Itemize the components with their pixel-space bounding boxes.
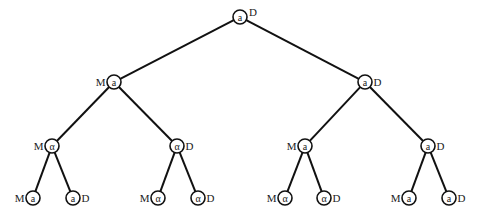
node-symbol: a: [447, 193, 452, 204]
node-symbol: a: [71, 193, 76, 204]
label-d: D: [458, 192, 466, 204]
node-symbol: a: [112, 77, 117, 88]
tree-node: aM: [96, 75, 121, 89]
tree-edge: [55, 152, 71, 191]
node-symbol: a: [407, 193, 412, 204]
tree-edge: [411, 153, 425, 192]
tree-edge: [288, 153, 303, 192]
tree-node: αD: [191, 191, 215, 205]
node-symbol: a: [303, 141, 308, 152]
label-m: M: [15, 192, 25, 204]
tree-node: aM: [287, 139, 312, 153]
tree-node: αD: [170, 139, 194, 153]
label-m: M: [391, 192, 401, 204]
tree-node: aD: [233, 6, 257, 24]
tree-edge: [180, 152, 196, 191]
tree-edge: [370, 87, 423, 141]
label-m: M: [96, 76, 106, 88]
tree-edge: [120, 20, 234, 79]
label-d: D: [333, 192, 341, 204]
label-d: D: [249, 6, 257, 18]
label-d: D: [207, 192, 215, 204]
tree-edge: [307, 153, 321, 192]
tree-node: aD: [421, 139, 445, 153]
tree-nodes: aDaMaDαMαDaMaDaMaDαMαDαMαDaMaD: [15, 6, 466, 205]
node-symbol: a: [363, 77, 368, 88]
tree-edge: [431, 152, 447, 191]
node-symbol: α: [155, 193, 161, 204]
tree-edges: [35, 20, 446, 191]
tree-node: αD: [317, 191, 341, 205]
tree-edge: [35, 153, 49, 192]
node-symbol: a: [426, 141, 431, 152]
tree-edge: [160, 153, 174, 192]
label-m: M: [34, 140, 44, 152]
tree-edge: [57, 87, 109, 141]
tree-node: aD: [358, 75, 382, 89]
tree-node: αM: [34, 139, 59, 153]
tree-node: αM: [267, 191, 292, 205]
label-d: D: [374, 76, 382, 88]
node-symbol: α: [321, 193, 327, 204]
tree-node: αM: [140, 191, 165, 205]
node-symbol: α: [195, 193, 201, 204]
tree-edge: [119, 87, 172, 141]
node-symbol: a: [238, 12, 243, 23]
node-symbol: α: [49, 141, 55, 152]
tree-node: aM: [15, 191, 40, 205]
tree-edge: [246, 20, 359, 79]
label-m: M: [140, 192, 150, 204]
node-symbol: α: [282, 193, 288, 204]
tree-edge: [310, 87, 360, 141]
tree-node: aD: [442, 191, 466, 205]
tree-node: aM: [391, 191, 416, 205]
tree-node: aD: [66, 191, 90, 205]
node-symbol: a: [31, 193, 36, 204]
tree-diagram: aDaMaDαMαDaMaDaMaDαMαDαMαDaMaD: [0, 0, 479, 220]
label-m: M: [287, 140, 297, 152]
label-d: D: [82, 192, 90, 204]
label-m: M: [267, 192, 277, 204]
label-d: D: [437, 140, 445, 152]
node-symbol: α: [174, 141, 180, 152]
label-d: D: [186, 140, 194, 152]
